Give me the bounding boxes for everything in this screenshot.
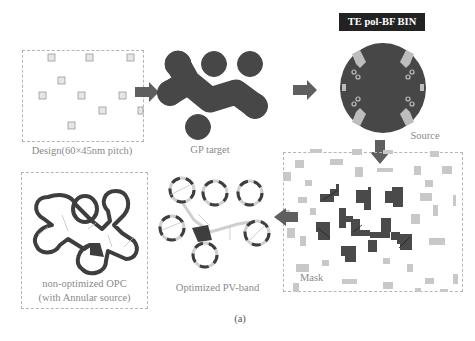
non-optimized-label-line2: (with Annular source): [21, 292, 148, 303]
optimized-label: Optimized PV-band: [160, 282, 275, 293]
figure-caption: (a): [220, 313, 260, 324]
non-optimized-opc-shape: [28, 185, 143, 290]
optimized-pv-band: [150, 170, 280, 280]
non-optimized-label-line1: non-optimized OPC: [21, 278, 148, 289]
mask-label: Mask: [300, 272, 340, 283]
